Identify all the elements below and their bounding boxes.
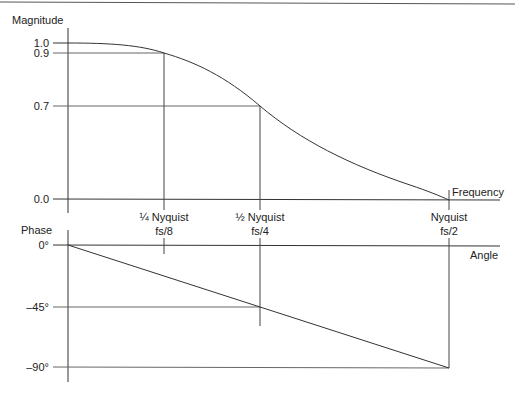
mag-tick-0-7: 0.7 [34,100,49,112]
mag-tick-0-9: 0.9 [34,47,49,59]
nyquist-label: Nyquist [431,211,468,223]
half-nyquist-label: ½ Nyquist [236,211,285,223]
top-border [0,2,515,4]
guide-minus-90 [53,367,449,368]
phase-axis-label: Phase [21,224,52,236]
magnitude-axis-label: Magnitude [12,14,63,26]
frequency-axis-label: Frequency [452,186,504,198]
phase-x-axis [53,245,500,246]
phase-tick-minus-45: –45° [26,301,49,313]
mag-tick-0-0: 0.0 [34,193,49,205]
magnitude-curve [68,43,449,200]
phase-tick-0: 0° [38,239,49,251]
angle-axis-label: Angle [470,249,498,261]
phase-tick-minus-90: –90° [26,361,49,373]
quarter-nyquist-fs: fs/8 [155,225,173,237]
half-nyquist-fs: fs/4 [251,225,269,237]
magnitude-x-axis [53,199,500,200]
quarter-nyquist-label: ¼ Nyquist [140,211,189,223]
frequency-response-diagram: Magnitude 1.0 0.9 0.7 0.0 Frequency ¼ Ny… [0,0,515,394]
nyquist-fs: fs/2 [440,225,458,237]
